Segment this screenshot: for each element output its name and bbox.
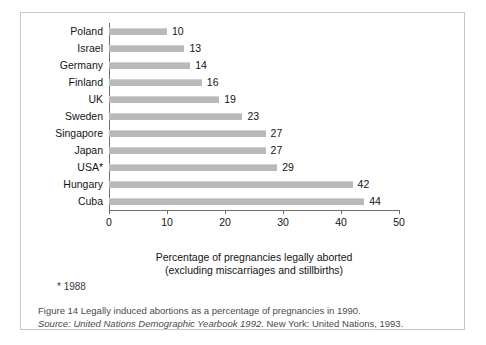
category-label: Poland: [21, 26, 109, 37]
bar-track: 44: [109, 193, 466, 210]
category-label: Singapore: [21, 128, 109, 139]
bar-value-label: 13: [189, 42, 201, 54]
x-tick-label: 20: [219, 216, 231, 228]
category-label: Hungary: [21, 179, 109, 190]
x-tick: [167, 210, 168, 214]
figure-caption: Figure 14 Legally induced abortions as a…: [38, 305, 453, 330]
category-label: UK: [21, 94, 109, 105]
x-tick: [399, 210, 400, 214]
caption-source-rest: . New York: United Nations, 1993.: [261, 318, 403, 329]
x-tick-label: 40: [335, 216, 347, 228]
bar: [109, 28, 167, 35]
x-tick: [109, 210, 110, 214]
figure-panel: Poland10Israel13Germany14Finland16UK19Sw…: [20, 12, 465, 330]
bar-track: 27: [109, 125, 466, 142]
x-tick-label: 50: [393, 216, 405, 228]
bar-value-label: 27: [271, 127, 283, 139]
bar-track: 27: [109, 142, 466, 159]
x-axis-line: [109, 210, 399, 211]
bar-track: 23: [109, 108, 466, 125]
bar-value-label: 44: [369, 195, 381, 207]
chart-row: Sweden23: [21, 108, 466, 125]
bar-value-label: 16: [207, 76, 219, 88]
category-label: Sweden: [21, 111, 109, 122]
footnote: * 1988: [57, 281, 86, 293]
category-label: Israel: [21, 43, 109, 54]
x-tick-label: 0: [106, 216, 112, 228]
x-tick: [341, 210, 342, 214]
chart-row: Japan27: [21, 142, 466, 159]
category-label: Finland: [21, 77, 109, 88]
chart-row: Hungary42: [21, 176, 466, 193]
bar-value-label: 42: [358, 178, 370, 190]
bar-track: 19: [109, 91, 466, 108]
chart-row: USA*29: [21, 159, 466, 176]
caption-source-title: United Nations Demographic Yearbook 1992: [73, 318, 261, 329]
bar: [109, 96, 219, 103]
chart-row: Finland16: [21, 74, 466, 91]
chart-row: Cuba44: [21, 193, 466, 210]
chart-rows: Poland10Israel13Germany14Finland16UK19Sw…: [21, 23, 466, 210]
bar-value-label: 10: [172, 25, 184, 37]
bar-track: 14: [109, 57, 466, 74]
caption-source-label: Source:: [38, 318, 71, 329]
chart-row: Singapore27: [21, 125, 466, 142]
bar: [109, 45, 184, 52]
category-label: USA*: [21, 162, 109, 173]
bar-track: 10: [109, 23, 466, 40]
category-label: Cuba: [21, 196, 109, 207]
bar-value-label: 23: [247, 110, 259, 122]
bar: [109, 113, 242, 120]
x-tick-label: 10: [161, 216, 173, 228]
x-tick: [283, 210, 284, 214]
bar-value-label: 14: [195, 59, 207, 71]
category-label: Japan: [21, 145, 109, 156]
bar: [109, 198, 364, 205]
bar-value-label: 19: [224, 93, 236, 105]
chart-row: UK19: [21, 91, 466, 108]
bar: [109, 130, 266, 137]
bar: [109, 147, 266, 154]
chart-row: Poland10: [21, 23, 466, 40]
chart-row: Germany14: [21, 57, 466, 74]
bar: [109, 164, 277, 171]
x-axis-title-line2: (excluding miscarriages and stillbirths): [109, 264, 399, 277]
bar-chart: Poland10Israel13Germany14Finland16UK19Sw…: [21, 23, 466, 238]
x-axis-title-line1: Percentage of pregnancies legally aborte…: [109, 251, 399, 264]
bar-track: 16: [109, 74, 466, 91]
x-tick: [225, 210, 226, 214]
x-axis-title: Percentage of pregnancies legally aborte…: [109, 251, 399, 277]
x-axis: 01020304050: [109, 210, 399, 240]
bar: [109, 62, 190, 69]
bar-track: 29: [109, 159, 466, 176]
bar: [109, 79, 202, 86]
bar-track: 13: [109, 40, 466, 57]
bar: [109, 181, 353, 188]
chart-row: Israel13: [21, 40, 466, 57]
bar-value-label: 29: [282, 161, 294, 173]
category-label: Germany: [21, 60, 109, 71]
caption-line-2: Source: United Nations Demographic Yearb…: [38, 318, 453, 331]
bar-value-label: 27: [271, 144, 283, 156]
caption-line-1: Figure 14 Legally induced abortions as a…: [38, 305, 453, 318]
x-tick-label: 30: [277, 216, 289, 228]
bar-track: 42: [109, 176, 466, 193]
